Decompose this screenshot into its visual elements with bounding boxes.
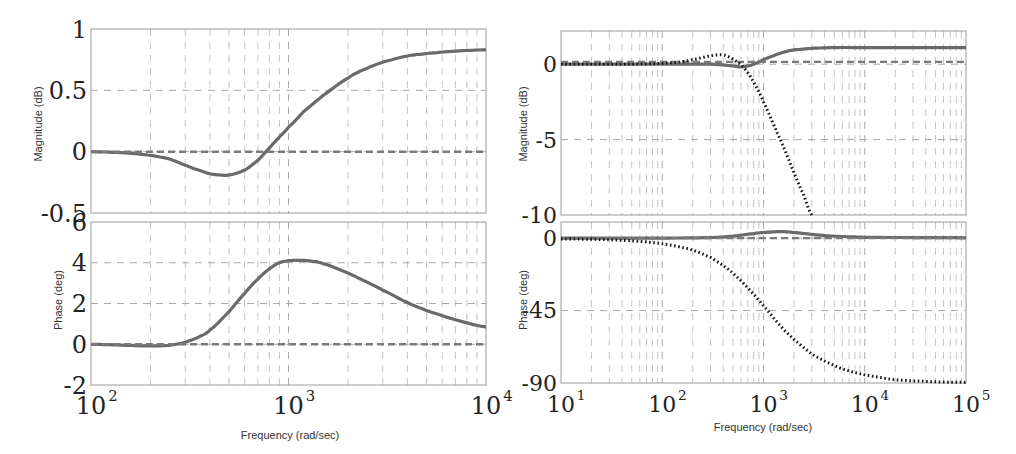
y-tick-label: 2: [72, 290, 87, 318]
x-tick-exponent: 1: [577, 387, 586, 403]
x-tick-exponent: 3: [306, 387, 315, 405]
right-magnitude-ylabel: Magnitude (dB): [517, 86, 529, 161]
bode-figure: 10.50-0.5 6420-2102103104 0-5-10 0-45-90…: [0, 0, 1016, 454]
left-phase-ylabel: Phase (deg): [52, 270, 64, 330]
x-tick-label: 10: [547, 392, 575, 417]
y-tick-label: 0: [543, 52, 557, 77]
x-tick-exponent: 5: [982, 387, 991, 403]
y-tick-label: 6: [72, 209, 87, 237]
x-tick-label: 10: [851, 392, 879, 417]
y-tick-label: -10: [522, 203, 557, 228]
x-tick-exponent: 3: [779, 387, 788, 403]
right-xlabel: Frequency (rad/sec): [714, 421, 812, 433]
right-phase-ylabel: Phase (deg): [517, 270, 529, 330]
x-tick-exponent: 4: [503, 387, 512, 405]
left-magnitude-ylabel: Magnitude (dB): [32, 86, 44, 161]
series-dotted-line: [561, 55, 812, 215]
y-tick-label: 0: [72, 138, 87, 166]
x-tick-label: 10: [471, 392, 502, 420]
x-tick-label: 10: [648, 392, 676, 417]
y-tick-label: 4: [72, 249, 87, 277]
y-tick-label: 0: [543, 226, 557, 251]
x-tick-label: 10: [76, 392, 107, 420]
y-tick-label: 0: [72, 331, 87, 359]
left-magnitude-plot: 10.50-0.5: [41, 16, 486, 228]
right-phase-plot: 0-45-90101102103104105: [522, 222, 991, 417]
right-magnitude-plot: 0-5-10: [522, 31, 966, 228]
x-tick-label: 10: [273, 392, 304, 420]
left-xlabel: Frequency (rad/sec): [241, 429, 339, 441]
x-tick-exponent: 2: [108, 387, 117, 405]
y-tick-label: 1: [72, 16, 87, 44]
y-tick-label: -5: [536, 128, 557, 153]
x-tick-label: 10: [952, 392, 980, 417]
left-phase-plot: 6420-2102103104: [64, 209, 513, 420]
x-tick-exponent: 2: [678, 387, 687, 403]
y-tick-label: 0.5: [49, 77, 87, 105]
x-tick-label: 10: [750, 392, 778, 417]
x-tick-exponent: 4: [881, 387, 890, 403]
